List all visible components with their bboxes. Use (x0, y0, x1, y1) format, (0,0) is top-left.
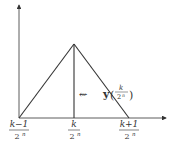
x-label-mid: k 2 n (68, 119, 81, 141)
x-label-left-exp: n (22, 131, 26, 137)
x-label-mid-num: k (71, 119, 76, 129)
x-label-right-den: 2 (124, 132, 129, 141)
x-label-right: k+1 2 n (119, 119, 139, 141)
x-label-left: k−1 2 n (9, 119, 29, 141)
x-label-left-num: k−1 (10, 119, 29, 129)
annotation-open-paren: ( (110, 89, 114, 102)
x-label-mid-exp: n (77, 131, 81, 137)
hat-function-diagram: k−1 2 n k 2 n k+1 2 n ⇜ y ( k 2 n ) (0, 0, 174, 149)
annotation-arg-num: k (119, 84, 123, 92)
squiggle-arrow-icon: ⇜ (79, 89, 87, 100)
annotation-arg-exp: n (122, 93, 125, 98)
x-label-right-exp: n (132, 131, 136, 137)
triangle-right-edge (74, 44, 129, 118)
annotation-close-paren: ) (129, 89, 133, 102)
annotation-symbol: y (102, 88, 110, 101)
x-label-mid-den: 2 (69, 132, 74, 141)
x-label-left-den: 2 (14, 132, 19, 141)
x-label-right-num: k+1 (120, 119, 139, 129)
annotation-arg-den: 2 (117, 93, 121, 101)
triangle-left-edge (19, 44, 74, 118)
